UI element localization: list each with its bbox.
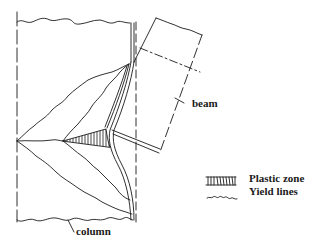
yield-line-horizontal: [17, 140, 63, 141]
deformed-flange-web: [107, 64, 129, 128]
beam-centerline: [140, 48, 200, 72]
legend-plastic-zone-symbol: [206, 177, 236, 185]
legend-yield-lines-label: Yield lines: [249, 186, 298, 197]
legend-yield-line-symbol: [207, 196, 237, 199]
deformed-flange-web-2: [105, 66, 127, 127]
beam-label: beam: [192, 98, 218, 109]
yield-line-lower-inner: [63, 141, 130, 200]
legend-plastic-zone-label: Plastic zone: [249, 173, 304, 184]
column-bottom-break-line: [17, 217, 133, 221]
yield-line-upper-inner: [63, 64, 129, 141]
beam-right-edge: [160, 35, 202, 152]
beam-top-break-line: [156, 18, 202, 35]
column-label-leader: [68, 220, 74, 232]
yield-line-lower-outer: [17, 141, 132, 214]
connection-diagram: [0, 0, 317, 249]
column-label: column: [76, 226, 111, 237]
beam-left-edge: [134, 18, 156, 62]
beam-label-leader: [175, 98, 184, 103]
column-top-break-line: [17, 18, 130, 24]
